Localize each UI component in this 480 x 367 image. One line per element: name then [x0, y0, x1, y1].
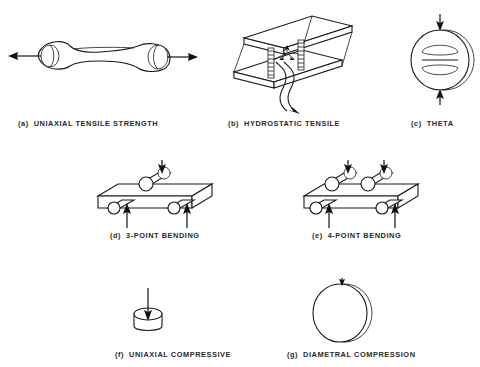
- tensile-arrow-left: [8, 52, 41, 60]
- panel-tag-g: (g): [287, 350, 298, 359]
- panel-four-point-bending: [296, 158, 426, 230]
- caption-hydrostatic-tensile: (b)HYDROSTATIC TENSILE: [228, 119, 340, 128]
- figure-canvas: (a)UNIAXIAL TENSILE STRENGTH: [0, 0, 480, 367]
- panel-hydrostatic-tensile: [224, 10, 364, 115]
- panel-label-e: 4-POINT BENDING: [328, 231, 402, 240]
- panel-three-point-bending: [90, 158, 220, 230]
- panel-tag-d: (d): [110, 231, 121, 240]
- panel-tag-b: (b): [228, 119, 239, 128]
- theta-specimen-icon: [411, 30, 474, 90]
- panel-uniaxial-tensile: [8, 22, 198, 92]
- panel-label-f: UNIAXIAL COMPRESSIVE: [129, 350, 231, 359]
- panel-tag-f: (f): [115, 350, 124, 359]
- diametral-disc-icon: [313, 284, 372, 342]
- hydrostatic-apparatus-icon: [234, 16, 352, 114]
- panel-tag-e: (e): [312, 231, 323, 240]
- panel-label-g: DIAMETRAL COMPRESSION: [303, 350, 415, 359]
- panel-label-d: 3-POINT BENDING: [126, 231, 200, 240]
- caption-four-point-bending: (e)4-POINT BENDING: [312, 231, 401, 240]
- panel-label-b: HYDROSTATIC TENSILE: [244, 119, 340, 128]
- caption-theta: (c)THETA: [411, 119, 454, 128]
- caption-diametral-compression: (g)DIAMETRAL COMPRESSION: [287, 350, 416, 359]
- caption-three-point-bending: (d)3-POINT BENDING: [110, 231, 200, 240]
- tensile-arrow-right: [167, 53, 198, 61]
- panel-label-a: UNIAXIAL TENSILE STRENGTH: [34, 119, 158, 128]
- caption-uniaxial-tensile: (a)UNIAXIAL TENSILE STRENGTH: [18, 119, 158, 128]
- panel-uniaxial-compressive: [120, 280, 190, 342]
- theta-load-arrow-bottom: [436, 89, 444, 105]
- panel-tag-c: (c): [411, 119, 422, 128]
- theta-load-arrow-top: [436, 14, 444, 31]
- panel-label-c: THETA: [427, 119, 454, 128]
- panel-theta: [400, 12, 480, 107]
- panel-diametral-compression: [302, 278, 392, 348]
- dogbone-specimen-icon: [38, 42, 170, 72]
- panel-tag-a: (a): [18, 119, 29, 128]
- caption-uniaxial-compressive: (f)UNIAXIAL COMPRESSIVE: [115, 350, 231, 359]
